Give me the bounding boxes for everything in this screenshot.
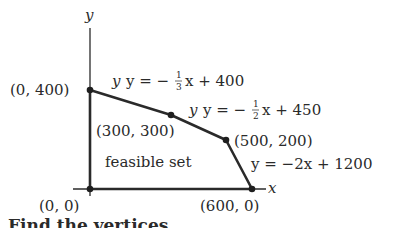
constraint-1-rhs: x + 400 [185, 72, 244, 90]
vertex-dot-0-0 [87, 186, 94, 193]
svg-text:1: 1 [176, 70, 182, 80]
vertex-label-0-0: (0, 0) [39, 197, 79, 215]
feasible-set-diagram: y x (0, 400) (300, 300) (500, 200) (600,… [0, 0, 401, 228]
x-axis-label: x [268, 179, 277, 197]
caption-text: Find the vertices [8, 215, 168, 228]
feasible-set-label: feasible set [105, 153, 192, 171]
vertex-dot-600-0 [249, 186, 256, 193]
constraint-2-lhs: y = − [202, 101, 246, 119]
svg-text:2: 2 [253, 111, 259, 121]
constraint-label-2: y y = − 1 2 x + 450 [188, 99, 321, 121]
vertex-label-300-300: (300, 300) [96, 122, 175, 140]
y-axis-label: y [84, 6, 94, 24]
vertex-dot-0-400 [87, 87, 94, 94]
vertex-label-600-0: (600, 0) [200, 197, 259, 215]
constraint-label-3: y = −2x + 1200 [250, 155, 372, 173]
svg-text:y: y [188, 101, 198, 119]
constraint-label-1: y y = − 1 3 x + 400 [111, 70, 244, 92]
svg-text:y: y [111, 72, 121, 90]
vertex-dot-500-200 [223, 137, 230, 144]
vertex-label-0-400: (0, 400) [10, 81, 69, 99]
constraint-1-lhs: y = − [125, 72, 169, 90]
vertex-label-500-200: (500, 200) [234, 132, 313, 150]
svg-text:3: 3 [176, 82, 182, 92]
vertex-dot-300-300 [168, 112, 175, 119]
constraint-2-rhs: x + 450 [262, 101, 321, 119]
svg-text:1: 1 [253, 99, 259, 109]
